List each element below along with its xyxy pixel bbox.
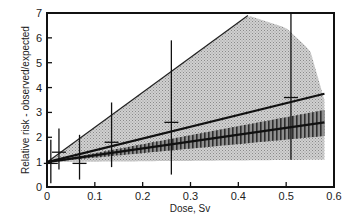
x-tick-label: 0.2	[135, 190, 150, 202]
y-tick-label: 0	[36, 181, 42, 193]
x-axis-label: Dose, Sv	[170, 203, 211, 214]
x-axis-ticks: 00.10.20.30.40.50.6	[44, 182, 342, 202]
y-axis-ticks: 01234567	[36, 7, 52, 193]
y-tick-label: 7	[36, 7, 42, 19]
y-axis-label: Relative risk - observed/expected	[20, 26, 31, 174]
x-tick-label: 0.5	[279, 190, 294, 202]
x-tick-label: 0	[44, 190, 50, 202]
x-tick-label: 0.4	[231, 190, 246, 202]
x-tick-label: 0.3	[183, 190, 198, 202]
chart: 00.10.20.30.40.50.6 01234567 Dose, Sv Re…	[0, 0, 357, 220]
y-tick-label: 6	[36, 32, 42, 44]
y-tick-label: 4	[36, 82, 42, 94]
y-tick-label: 3	[36, 106, 42, 118]
y-tick-label: 2	[36, 131, 42, 143]
x-tick-label: 0.1	[87, 190, 102, 202]
x-tick-label: 0.6	[326, 190, 341, 202]
y-tick-label: 1	[36, 156, 42, 168]
y-tick-label: 5	[36, 57, 42, 69]
confidence-bands	[47, 15, 324, 162]
